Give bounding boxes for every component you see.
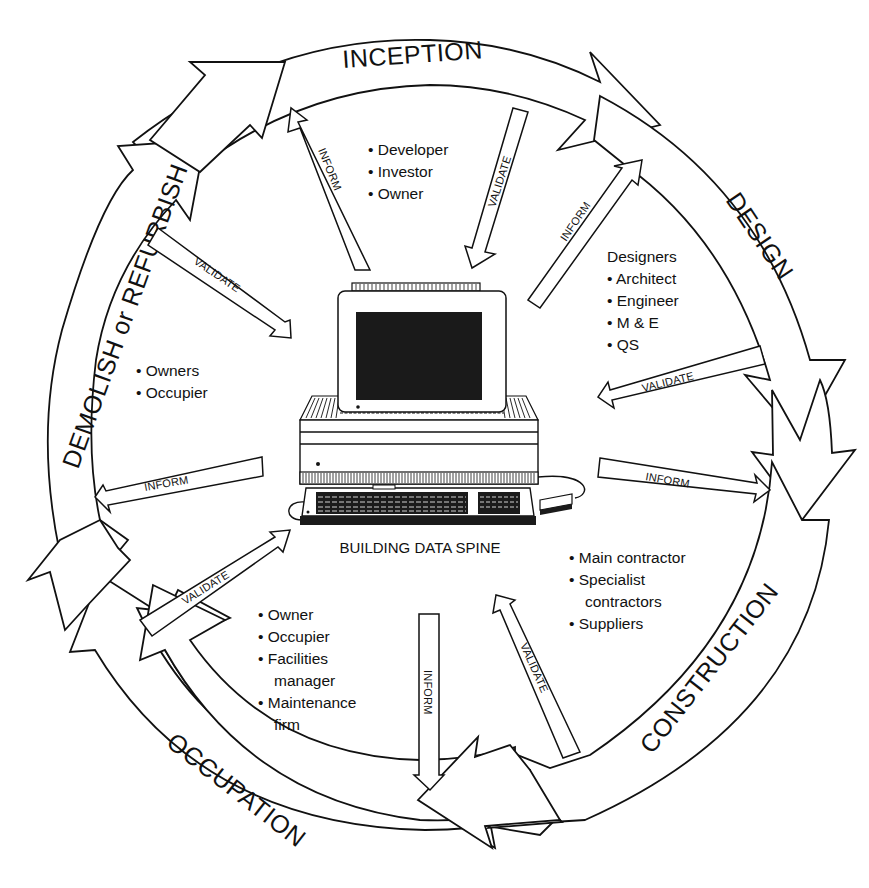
svg-text:• Occupier: • Occupier [258, 628, 330, 645]
stakeholders-design: Designers • Architect • Engineer • M & E… [607, 248, 679, 353]
building-lifecycle-diagram: INCEPTION DESIGN CONSTRUCTION OCCUPATION… [0, 0, 869, 888]
center-caption: BUILDING DATA SPINE [339, 539, 500, 556]
stakeholders-construction: • Main contractor • Specialist contracto… [569, 549, 686, 632]
svg-text:• Owners: • Owners [136, 362, 199, 379]
svg-text:• M & E: • M & E [607, 314, 659, 331]
flow-arrow-validate-design: VALIDATE [598, 346, 765, 408]
svg-text:• Architect: • Architect [607, 270, 677, 287]
flow-arrow-validate-construction: VALIDATE [493, 595, 580, 758]
flow-arrow-inform-demolish: INFORM [95, 457, 263, 512]
svg-text:• Maintenance: • Maintenance [258, 694, 357, 711]
svg-text:• Suppliers: • Suppliers [569, 615, 644, 632]
flow-arrow-inform-construction: INFORM [598, 458, 770, 502]
flow-arrow-validate-demolish: VALIDATE [148, 228, 291, 338]
svg-text:• Main contractor: • Main contractor [569, 549, 686, 566]
svg-text:firm: firm [274, 716, 300, 733]
svg-text:VALIDATE: VALIDATE [180, 568, 231, 606]
svg-text:• Occupier: • Occupier [136, 384, 208, 401]
svg-text:• Engineer: • Engineer [607, 292, 679, 309]
svg-text:manager: manager [274, 672, 335, 689]
flow-arrow-inform-occupation: INFORM [414, 614, 444, 790]
svg-text:Designers: Designers [607, 248, 677, 265]
computer-icon [289, 283, 585, 525]
svg-text:• Developer: • Developer [368, 141, 448, 158]
svg-text:• Facilities: • Facilities [258, 650, 328, 667]
svg-text:• Owner: • Owner [258, 606, 313, 623]
stakeholders-inception: • Developer • Investor • Owner [368, 141, 448, 202]
svg-text:contractors: contractors [585, 593, 662, 610]
svg-text:• Owner: • Owner [368, 185, 423, 202]
svg-text:INFORM: INFORM [422, 670, 434, 715]
flow-arrow-inform-inception: INFORM [288, 108, 370, 270]
svg-text:VALIDATE: VALIDATE [485, 154, 513, 208]
stakeholders-demolish: • Owners • Occupier [136, 362, 208, 401]
svg-text:• Investor: • Investor [368, 163, 433, 180]
svg-text:• Specialist: • Specialist [569, 571, 646, 588]
svg-text:• QS: • QS [607, 336, 639, 353]
flow-arrow-validate-inception: VALIDATE [465, 108, 528, 268]
